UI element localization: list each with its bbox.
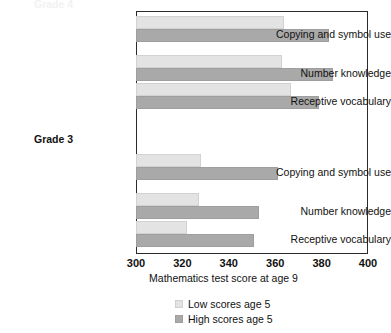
category-label-g4-number: Number knowledge [259,67,391,79]
bar-high-g3-receptive [136,234,254,247]
bar-low-g3-receptive [136,221,187,234]
legend-item-low: Low scores age 5 [175,296,273,311]
category-label-g3-copying: Copying and symbol use [259,166,391,178]
x-tick-300: 300 [127,257,145,269]
legend: Low scores age 5 High scores age 5 [175,296,273,326]
x-tick-360: 360 [266,257,284,269]
cut-off-group-title: Grade 4 [34,0,73,10]
legend-swatch-high-icon [175,315,183,323]
legend-item-high: High scores age 5 [175,311,273,326]
legend-label-low: Low scores age 5 [188,298,270,310]
category-label-g3-receptive: Receptive vocabulary [259,233,391,245]
x-tick-340: 340 [220,257,238,269]
x-axis-title-text: Mathematics test score at age 9 [149,272,298,284]
category-label-g4-receptive: Receptive vocabulary [259,95,391,107]
x-tick-320: 320 [173,257,191,269]
legend-label-high: High scores age 5 [188,313,273,325]
category-label-g4-copying: Copying and symbol use [259,28,391,40]
bar-low-g3-copying [136,154,201,167]
x-tick-380: 380 [312,257,330,269]
legend-swatch-low-icon [175,300,183,308]
x-tick-400: 400 [359,257,377,269]
x-axis-title: Mathematics test score at age 9 [0,272,391,284]
bar-high-g3-number [136,206,259,219]
bars-layer [136,11,368,254]
group-label-grade-3: Grade 3 [34,133,73,145]
bar-low-g3-number [136,193,199,206]
bar-high-g3-copying [136,167,278,180]
bar-chart: Grade 4 Copying and symbol use Number kn… [0,0,391,333]
category-label-g3-number: Number knowledge [259,205,391,217]
